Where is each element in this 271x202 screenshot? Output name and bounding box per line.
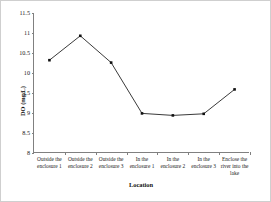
y-tick-mark	[32, 93, 35, 94]
y-tick-label: 11	[24, 30, 30, 36]
plot-area: 88.599.51010.51111.5Outside the enclosur…	[33, 13, 249, 153]
y-tick-label: 8.5	[22, 130, 30, 136]
x-tick-label: In the enclosure 3	[187, 156, 221, 170]
x-tick-label: Outside the enclosure 3	[94, 156, 128, 170]
x-tick-mark	[188, 152, 189, 155]
x-tick-label: Outside the enclosure 2	[63, 156, 97, 170]
y-tick-label: 10	[24, 70, 30, 76]
x-tick-mark	[250, 152, 251, 155]
y-tick-mark	[32, 33, 35, 34]
y-tick-label: 9	[27, 110, 30, 116]
x-tick-mark	[96, 152, 97, 155]
y-tick-label: 8	[27, 150, 30, 156]
x-tick-label: Outside the enclosure 1	[32, 156, 66, 170]
x-tick-label: In the enclosure 2	[156, 156, 190, 170]
data-point-marker	[79, 35, 82, 38]
y-tick-label: 9.5	[22, 90, 30, 96]
x-tick-label: Enclose the river into the lake	[218, 156, 252, 177]
y-tick-label: 10.5	[19, 50, 30, 56]
x-tick-mark	[65, 152, 66, 155]
y-tick-mark	[32, 73, 35, 74]
data-point-marker	[233, 88, 236, 91]
data-point-marker	[110, 61, 113, 64]
y-tick-mark	[32, 13, 35, 14]
x-tick-mark	[127, 152, 128, 155]
x-axis-title: Location	[33, 181, 249, 188]
data-point-marker	[141, 112, 144, 115]
y-tick-mark	[32, 133, 35, 134]
do-series-line	[49, 36, 234, 116]
data-point-marker	[48, 59, 51, 62]
chart-figure: DO (mg/L) 88.599.51010.51111.5Outside th…	[0, 0, 271, 202]
data-point-marker	[202, 113, 205, 116]
data-point-marker	[172, 114, 175, 117]
x-tick-mark	[219, 152, 220, 155]
x-tick-mark	[157, 152, 158, 155]
y-tick-mark	[32, 153, 35, 154]
series-canvas	[34, 13, 250, 153]
x-tick-label: In the enclosure 1	[125, 156, 159, 170]
data-point-markers	[48, 35, 236, 117]
y-tick-mark	[32, 53, 35, 54]
y-tick-label: 11.5	[19, 10, 30, 16]
y-tick-mark	[32, 113, 35, 114]
